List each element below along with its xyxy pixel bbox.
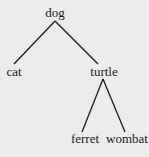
node-wombat: wombat [106, 132, 148, 145]
edge-dog-cat [14, 21, 55, 64]
edge-turtle-wombat [103, 79, 125, 132]
edge-turtle-ferret [82, 79, 103, 132]
node-turtle: turtle [90, 65, 117, 78]
edge-dog-turtle [55, 21, 98, 64]
node-cat: cat [6, 65, 21, 78]
node-dog: dog [45, 6, 65, 19]
node-ferret: ferret [71, 132, 99, 145]
